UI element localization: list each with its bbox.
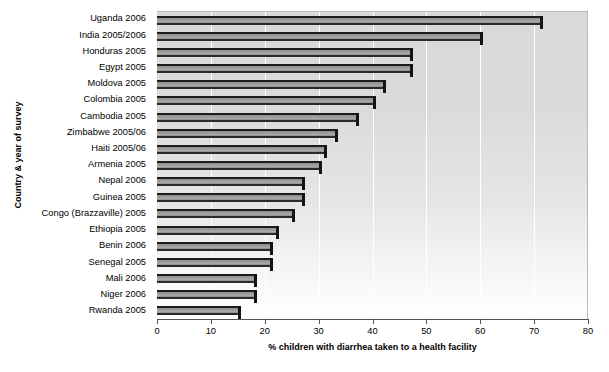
bar[interactable]: [157, 96, 373, 105]
category-label: Senegal 2005: [0, 254, 152, 270]
x-tick: [534, 319, 535, 324]
category-label: Mali 2006: [0, 270, 152, 286]
x-tick: [426, 319, 427, 324]
x-tick-label: 40: [353, 325, 393, 337]
x-tick: [211, 319, 212, 324]
bar-row[interactable]: [157, 93, 587, 109]
bar[interactable]: [157, 129, 335, 138]
bar-row[interactable]: [157, 141, 587, 157]
bar-row[interactable]: [157, 28, 587, 44]
category-label: Haiti 2005/06: [0, 141, 152, 157]
bar-row[interactable]: [157, 271, 587, 287]
category-label: Niger 2006: [0, 286, 152, 302]
bar-row[interactable]: [157, 238, 587, 254]
bar[interactable]: [157, 274, 254, 283]
bar[interactable]: [157, 113, 356, 122]
x-tick: [319, 319, 320, 324]
bar[interactable]: [157, 258, 270, 267]
bar[interactable]: [157, 226, 276, 235]
plot-area: [157, 11, 588, 319]
bar[interactable]: [157, 242, 270, 251]
category-label: India 2005/2006: [0, 27, 152, 43]
bar-row[interactable]: [157, 12, 587, 28]
bar-row[interactable]: [157, 206, 587, 222]
bar[interactable]: [157, 193, 302, 202]
bar[interactable]: [157, 290, 254, 299]
x-tick-label: 50: [406, 325, 446, 337]
category-label: Moldova 2005: [0, 76, 152, 92]
bar-row[interactable]: [157, 44, 587, 60]
category-label: Nepal 2006: [0, 173, 152, 189]
x-tick: [588, 319, 589, 324]
bar[interactable]: [157, 80, 383, 89]
x-tick-label: 60: [460, 325, 500, 337]
bar-row[interactable]: [157, 222, 587, 238]
bar-row[interactable]: [157, 287, 587, 303]
bar[interactable]: [157, 161, 319, 170]
bar-row[interactable]: [157, 60, 587, 76]
bar[interactable]: [157, 64, 410, 73]
category-label: Congo (Brazzaville) 2005: [0, 205, 152, 221]
x-tick-label: 30: [299, 325, 339, 337]
x-tick-label: 80: [568, 325, 608, 337]
x-axis-tick-labels: 01020304050607080: [0, 325, 609, 339]
category-label: Egypt 2005: [0, 60, 152, 76]
category-label: Honduras 2005: [0, 43, 152, 59]
x-tick-label: 20: [245, 325, 285, 337]
x-axis-title: % children with diarrhea taken to a heal…: [157, 342, 588, 352]
category-label: Ethiopia 2005: [0, 222, 152, 238]
y-axis-category-labels: Uganda 2006 India 2005/2006 Honduras 200…: [0, 11, 152, 319]
bar-row[interactable]: [157, 77, 587, 93]
bar[interactable]: [157, 16, 540, 25]
category-label: Rwanda 2005: [0, 303, 152, 319]
bar[interactable]: [157, 209, 292, 218]
category-label: Zimbabwe 2005/06: [0, 124, 152, 140]
x-tick-label: 70: [514, 325, 554, 337]
bar-row[interactable]: [157, 254, 587, 270]
bar-row[interactable]: [157, 174, 587, 190]
bar-row[interactable]: [157, 303, 587, 319]
x-tick: [480, 319, 481, 324]
category-label: Uganda 2006: [0, 11, 152, 27]
bar[interactable]: [157, 32, 480, 41]
bar[interactable]: [157, 177, 302, 186]
x-tick: [265, 319, 266, 324]
category-label: Armenia 2005: [0, 157, 152, 173]
bar[interactable]: [157, 48, 410, 57]
category-label: Benin 2006: [0, 238, 152, 254]
category-label: Cambodia 2005: [0, 108, 152, 124]
category-label: Colombia 2005: [0, 92, 152, 108]
x-tick: [373, 319, 374, 324]
bar-chart: Country & year of survey Uganda 2006 Ind…: [0, 0, 609, 372]
bar-row[interactable]: [157, 157, 587, 173]
x-tick-label: 0: [137, 325, 177, 337]
category-label: Guinea 2005: [0, 189, 152, 205]
bar[interactable]: [157, 145, 324, 154]
bar-row[interactable]: [157, 109, 587, 125]
x-tick-label: 10: [191, 325, 231, 337]
bar-row[interactable]: [157, 125, 587, 141]
bar-row[interactable]: [157, 190, 587, 206]
x-axis-ticks: [157, 319, 588, 324]
x-tick: [157, 319, 158, 324]
bar-series: [157, 12, 587, 319]
bar[interactable]: [157, 306, 238, 315]
